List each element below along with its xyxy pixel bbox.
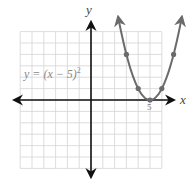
data-point [159, 86, 164, 91]
parabola-graph: x y 5 y = (x − 5)2 [0, 0, 190, 185]
equation-label: y = (x − 5)2 [23, 66, 81, 81]
data-point [136, 86, 141, 91]
tick-label-5: 5 [147, 102, 152, 112]
data-point [171, 52, 176, 57]
y-axis-label: y [84, 2, 92, 17]
data-point [124, 52, 129, 57]
x-axis-label: x [179, 92, 186, 107]
equation-base: y = (x − 5) [23, 67, 77, 81]
equation-exponent: 2 [77, 66, 81, 75]
